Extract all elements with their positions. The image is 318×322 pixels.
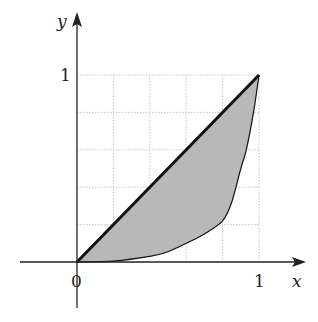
y-axis-label: y: [56, 11, 67, 31]
chart: y 1 0 1 x: [0, 0, 318, 322]
y-tick-1: 1: [60, 65, 71, 85]
x-axis-label: x: [292, 271, 302, 291]
origin-label: 0: [71, 271, 82, 291]
x-tick-1: 1: [254, 271, 265, 291]
